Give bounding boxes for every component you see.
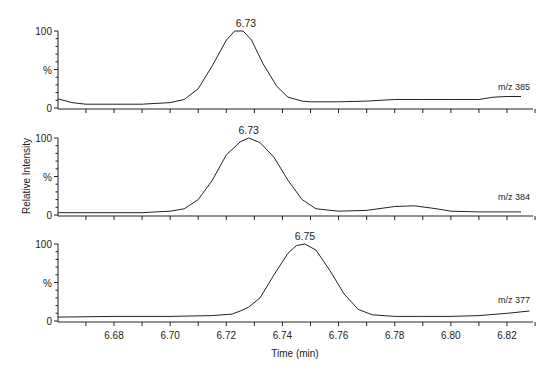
peak-label: 6.73 — [239, 124, 260, 136]
chromatogram-trace — [58, 138, 521, 213]
x-tick-label: 6.68 — [104, 330, 124, 341]
y-tick-label-100: 100 — [35, 26, 52, 37]
x-tick-label: 6.72 — [217, 330, 237, 341]
x-tick-label: 6.80 — [441, 330, 461, 341]
x-tick-label: 6.78 — [385, 330, 405, 341]
x-tick-label: 6.76 — [329, 330, 349, 341]
y-tick-label-0: 0 — [46, 103, 52, 114]
y-tick-label-percent: % — [43, 65, 52, 76]
mz-label: m/z 377 — [498, 295, 530, 305]
chromatogram-figure: 100%06.73m/z 385100%06.73m/z 384100%06.7… — [0, 0, 555, 377]
y-tick-label-0: 0 — [46, 316, 52, 327]
y-tick-label-100: 100 — [35, 133, 52, 144]
peak-label: 6.73 — [236, 17, 257, 29]
mz-label: m/z 385 — [498, 82, 530, 92]
y-tick-label-0: 0 — [46, 210, 52, 221]
x-tick-label: 6.82 — [497, 330, 517, 341]
x-tick-label: 6.70 — [160, 330, 180, 341]
y-tick-label-100: 100 — [35, 239, 52, 250]
y-axis-title: Relative Intensity — [21, 138, 32, 214]
chromatogram-trace — [58, 244, 530, 317]
chromatogram-trace — [58, 31, 521, 104]
x-tick-label: 6.74 — [273, 330, 293, 341]
mz-label: m/z 384 — [498, 192, 530, 202]
chromatogram-plot: 100%06.73m/z 385100%06.73m/z 384100%06.7… — [0, 0, 555, 377]
peak-label: 6.75 — [295, 230, 316, 242]
y-tick-label-percent: % — [43, 172, 52, 183]
y-tick-label-percent: % — [43, 278, 52, 289]
x-axis-title: Time (min) — [271, 348, 318, 359]
